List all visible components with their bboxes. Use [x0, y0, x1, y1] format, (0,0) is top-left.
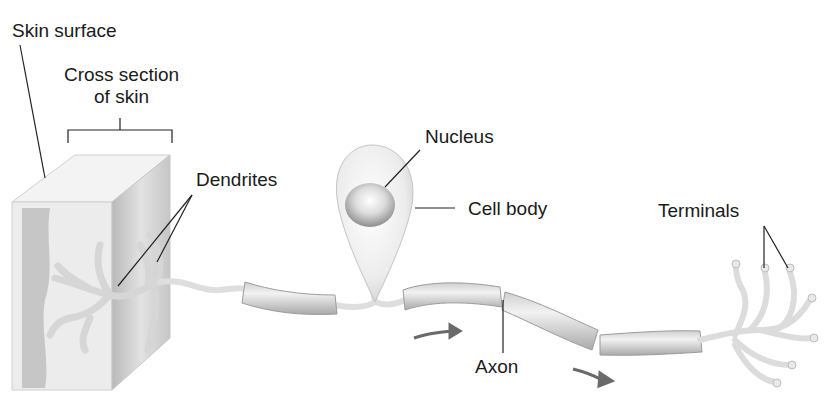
label-nucleus: Nucleus [425, 126, 494, 148]
terminal-bulbs [732, 260, 818, 387]
cell-body [336, 145, 413, 302]
label-cross-section-line2: of skin [44, 86, 199, 108]
label-terminals: Terminals [658, 200, 739, 222]
label-cross-section-line1: Cross section [44, 64, 199, 86]
label-axon: Axon [475, 356, 518, 378]
label-skin-surface: Skin surface [12, 20, 117, 42]
label-cell-body: Cell body [468, 198, 547, 220]
label-cross-section: Cross section of skin [44, 64, 199, 108]
nucleus-shape [345, 183, 395, 227]
arrow-icon [450, 325, 460, 337]
label-dendrites: Dendrites [196, 169, 277, 191]
myelin-sheath [242, 282, 702, 355]
arrow-icon [599, 373, 612, 386]
